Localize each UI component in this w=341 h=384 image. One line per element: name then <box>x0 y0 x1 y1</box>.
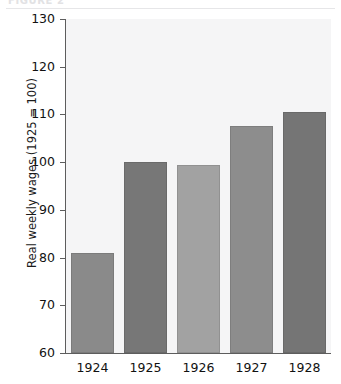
y-axis-tick-label: 120 <box>15 59 55 74</box>
bar-1926 <box>177 165 219 353</box>
y-axis-tick-label: 80 <box>15 250 55 265</box>
bar-series <box>66 19 331 353</box>
bar-1925 <box>124 162 166 353</box>
y-axis-tick-label: 90 <box>15 202 55 217</box>
figure-header: FIGURE 2 <box>0 0 341 11</box>
figure-caption: FIGURE 2 <box>8 0 65 6</box>
bar-1927 <box>230 126 272 353</box>
x-axis-tick-label: 1927 <box>222 360 282 375</box>
y-axis-tick <box>60 353 66 354</box>
y-axis-tick-label: 70 <box>15 297 55 312</box>
y-axis-tick-label: 110 <box>15 106 55 121</box>
x-axis-tick-label: 1925 <box>116 360 176 375</box>
y-axis-tick-label: 100 <box>15 154 55 169</box>
y-axis-tick-label: 60 <box>15 345 55 360</box>
figure-container: FIGURE 2 Real weekly wages (1925 = 100) … <box>0 0 341 384</box>
y-axis-tick-label: 130 <box>15 11 55 26</box>
bar-1928 <box>283 112 325 353</box>
x-axis-tick-label: 1928 <box>275 360 335 375</box>
x-axis-tick-label: 1924 <box>63 360 123 375</box>
x-axis-tick-label: 1926 <box>169 360 229 375</box>
header-divider <box>6 8 335 9</box>
x-axis-line <box>65 353 331 354</box>
bar-1924 <box>71 253 113 353</box>
